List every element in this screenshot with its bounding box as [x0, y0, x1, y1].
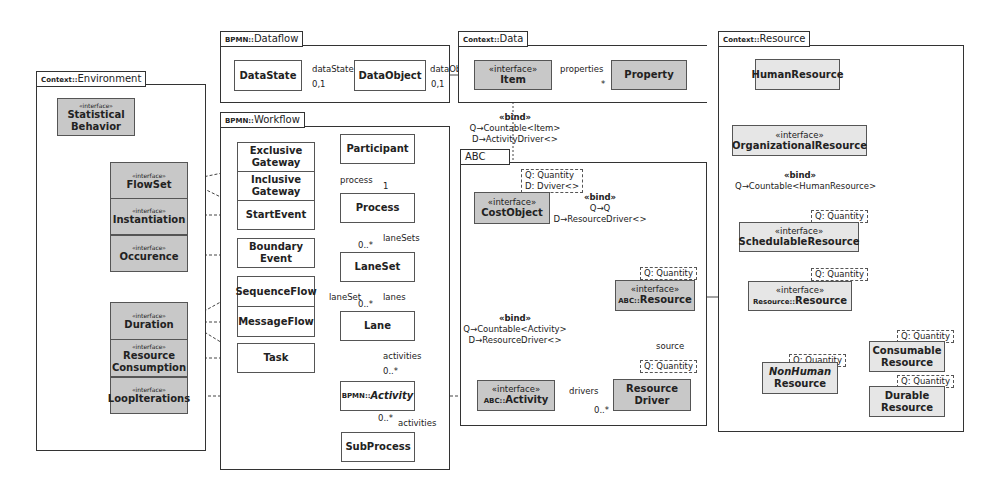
assoc-drivers-label: drivers — [569, 386, 598, 396]
class-abc-resource[interactable]: «interface» ABC::Resource — [615, 280, 695, 311]
class-bpmn-activity[interactable]: BPMN::Activity — [340, 381, 415, 411]
class-exclusive-gateway[interactable]: Exclusive Gateway — [237, 142, 315, 172]
assoc-activities-label: activities — [383, 351, 421, 361]
assoc-laneset-label: laneSet — [329, 292, 361, 302]
class-resource-consumption[interactable]: «interface» Resource Consumption — [110, 339, 188, 377]
class-nonhuman-resource[interactable]: NonHuman Resource — [762, 362, 838, 394]
resource-resource-template: Q: Quantity — [811, 268, 868, 281]
assoc-lanes-label: lanes — [383, 292, 406, 302]
class-inclusive-gateway[interactable]: Inclusive Gateway — [237, 171, 315, 201]
assoc-datastate-mult: 0,1 — [312, 79, 326, 89]
class-sequence-flow[interactable]: SequenceFlow — [237, 276, 315, 307]
assoc-properties-mult: * — [601, 79, 605, 89]
class-laneset[interactable]: LaneSet — [340, 252, 415, 282]
costobject-template: Q: Quantity D: Dviver<> — [521, 169, 583, 193]
class-occurence[interactable]: «interface» Occurence — [110, 235, 188, 272]
bind-resource: «bind» Q→Countable<HumanResource> — [735, 170, 865, 192]
class-dataobject[interactable]: DataObject — [354, 60, 426, 91]
class-consumable-resource[interactable]: Consumable Resource — [869, 341, 945, 372]
class-organizational-resource[interactable]: «interface» OrganizationalResource — [732, 125, 867, 156]
assoc-source-label: source — [656, 341, 684, 351]
assoc-properties-label: properties — [560, 64, 603, 74]
bind-abc-left: «bind» Q→Countable<Activity> D→ResourceD… — [458, 313, 572, 346]
class-task[interactable]: Task — [237, 343, 315, 373]
class-property[interactable]: Property — [611, 60, 687, 90]
class-lane[interactable]: Lane — [340, 311, 415, 341]
class-instantiation[interactable]: «interface» Instantiation — [110, 198, 188, 235]
assoc-datastate-label: dataState — [312, 64, 354, 74]
assoc-process-mult: 1 — [383, 181, 388, 191]
assoc-drivers-mult: 0..* — [594, 405, 609, 415]
bind-abc-top: «bind» Q→Q D→ResourceDriver<> — [545, 192, 655, 225]
package-abc-tab: ABC — [460, 149, 510, 165]
assoc-sub-activities-mult: 0..* — [378, 413, 393, 423]
package-environment-tab: Context::Environment — [36, 71, 146, 87]
class-cost-object[interactable]: «interface» CostObject — [474, 192, 550, 224]
bind-item: «bind» Q→Countable<Item> D→ActivityDrive… — [468, 112, 562, 145]
class-datastate[interactable]: DataState — [234, 60, 302, 91]
class-start-event[interactable]: StartEvent — [237, 200, 315, 230]
assoc-lanesets-label: laneSets — [383, 233, 420, 243]
assoc-sub-activities-label: activities — [398, 418, 436, 428]
assoc-process-label: process — [340, 175, 373, 185]
class-resource-resource[interactable]: «interface» Resource::Resource — [748, 281, 852, 311]
abc-resource-template: Q: Quantity — [640, 267, 697, 280]
class-loop-iterations[interactable]: «interface» LoopIterations — [110, 377, 188, 414]
class-human-resource[interactable]: HumanResource — [755, 59, 840, 90]
resource-driver-template: Q: Quantity — [640, 360, 697, 373]
package-dataflow-tab: BPMN::Dataflow — [220, 31, 303, 47]
class-process[interactable]: Process — [340, 193, 415, 223]
class-participant[interactable]: Participant — [340, 134, 415, 164]
class-subprocess[interactable]: SubProcess — [341, 432, 415, 462]
class-boundary-event[interactable]: Boundary Event — [237, 238, 315, 268]
class-duration[interactable]: «interface» Duration — [110, 302, 188, 340]
package-data-tab: Context::Data — [458, 31, 528, 47]
assoc-dataobject-mult: 0,1 — [431, 79, 445, 89]
assoc-activities-mult: 0..* — [383, 366, 398, 376]
class-message-flow[interactable]: MessageFlow — [237, 306, 315, 337]
package-resource-tab: Context::Resource — [718, 31, 810, 47]
class-durable-resource[interactable]: Durable Resource — [869, 386, 945, 417]
class-statistical-behavior[interactable]: «interface» Statistical Behavior — [57, 98, 135, 136]
class-schedulable-resource[interactable]: «interface» SchedulableResource — [739, 222, 859, 252]
assoc-lanesets-mult: 0..* — [358, 240, 373, 250]
class-item[interactable]: «interface» Item — [474, 60, 552, 90]
class-abc-activity[interactable]: «interface» ABC::Activity — [477, 380, 555, 411]
package-workflow-tab: BPMN::Workflow — [220, 112, 305, 128]
class-resource-driver[interactable]: Resource Driver — [613, 379, 691, 411]
class-flowset[interactable]: «interface» FlowSet — [110, 162, 188, 200]
